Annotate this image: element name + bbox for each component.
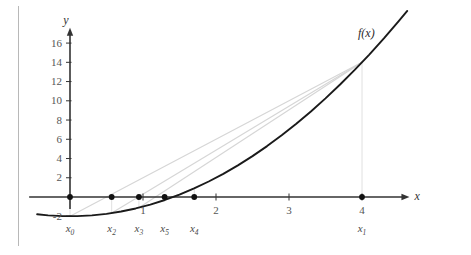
y-tick-label--2: -2	[53, 211, 62, 222]
plot-canvas	[0, 0, 471, 255]
figure-container: 161412108642-21234xyf(x)x0x2x3x5x4x1	[0, 0, 471, 255]
iterate-label-x5: x5	[160, 223, 169, 237]
iterate-label-x1: x1	[358, 223, 367, 237]
secant-x0-x1	[70, 62, 362, 216]
y-tick-label-10: 10	[51, 95, 62, 106]
iterate-label-x3: x3	[135, 223, 144, 237]
y-tick-label-4: 4	[57, 153, 63, 164]
y-tick-label-14: 14	[51, 57, 62, 68]
y-tick-label-6: 6	[57, 134, 63, 145]
iterate-marker-x0	[67, 194, 73, 200]
x-axis-label: x	[414, 190, 419, 202]
x-tick-label-1: 1	[140, 205, 146, 216]
secant-x3-x1	[139, 62, 362, 207]
axis-ticks-group	[66, 43, 362, 216]
iterate-marker-x2	[109, 194, 115, 200]
y-axis-arrowhead	[67, 28, 73, 36]
iterate-label-x4: x4	[190, 223, 199, 237]
y-tick-label-2: 2	[57, 172, 63, 183]
function-curve-label: f(x)	[358, 27, 375, 39]
x-tick-label-4: 4	[359, 205, 365, 216]
y-tick-label-16: 16	[51, 38, 62, 49]
function-curve	[37, 11, 407, 216]
y-axis-label: y	[63, 14, 68, 26]
y-tick-label-8: 8	[57, 115, 63, 126]
x-tick-label-3: 3	[286, 205, 292, 216]
iterate-marker-x3	[136, 194, 142, 200]
y-tick-label-12: 12	[51, 76, 62, 87]
iterate-marker-x1	[359, 194, 365, 200]
iterate-label-x0: x0	[66, 223, 75, 237]
iterate-marker-x5	[162, 194, 168, 200]
axes-group	[29, 28, 409, 209]
function-curve-group	[37, 11, 407, 216]
iterate-label-x2: x2	[107, 223, 116, 237]
iterate-marker-x4	[191, 194, 197, 200]
secant-x2-x1	[112, 62, 362, 213]
x-axis-arrowhead	[401, 194, 409, 200]
x-tick-label-2: 2	[213, 205, 219, 216]
secant-lines-group	[70, 62, 362, 216]
